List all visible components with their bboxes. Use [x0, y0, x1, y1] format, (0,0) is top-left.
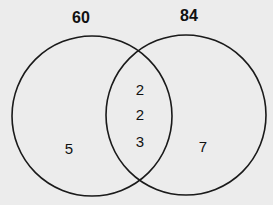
left-only-value: 5: [65, 140, 73, 157]
left-circle: [12, 36, 172, 196]
right-only-value: 7: [199, 138, 207, 155]
left-set-label: 60: [72, 9, 90, 27]
venn-diagram: [0, 0, 273, 205]
right-set-label: 84: [180, 7, 198, 25]
right-circle: [106, 35, 266, 195]
intersection-value-3: 3: [136, 133, 144, 150]
intersection-value-2: 2: [136, 106, 144, 123]
intersection-value-1: 2: [136, 81, 144, 98]
